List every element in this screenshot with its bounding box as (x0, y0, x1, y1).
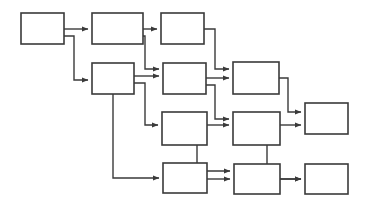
connector-n6-to-n9 (279, 78, 301, 112)
node-n5[interactable] (163, 63, 206, 94)
flowchart-svg (0, 0, 369, 211)
node-n4[interactable] (92, 63, 134, 94)
connector-n4-to-n7 (134, 83, 158, 125)
connector-n5-to-n8 (206, 85, 229, 119)
connector-n2-to-n5 (143, 36, 159, 69)
diagram-canvas (0, 0, 369, 211)
node-box-n3[interactable] (161, 13, 204, 44)
node-n7[interactable] (162, 112, 207, 145)
node-n11[interactable] (234, 164, 280, 194)
node-n9[interactable] (305, 103, 348, 134)
node-n2[interactable] (92, 13, 143, 44)
node-n3[interactable] (161, 13, 204, 44)
node-n8[interactable] (233, 112, 280, 145)
connector-n4-to-n10 (113, 94, 159, 178)
node-box-n10[interactable] (163, 163, 207, 193)
edge-layer (64, 29, 301, 179)
node-n6[interactable] (233, 62, 279, 94)
node-n10[interactable] (163, 163, 207, 193)
node-box-n6[interactable] (233, 62, 279, 94)
node-box-n12[interactable] (305, 164, 348, 194)
node-box-n5[interactable] (163, 63, 206, 94)
node-box-n8[interactable] (233, 112, 280, 145)
node-box-n4[interactable] (92, 63, 134, 94)
connector-n1-to-n4 (64, 36, 88, 80)
node-box-n1[interactable] (21, 13, 64, 44)
node-box-n11[interactable] (234, 164, 280, 194)
node-n12[interactable] (305, 164, 348, 194)
node-n1[interactable] (21, 13, 64, 44)
node-box-n9[interactable] (305, 103, 348, 134)
node-box-n2[interactable] (92, 13, 143, 44)
node-layer (21, 13, 348, 194)
node-box-n7[interactable] (162, 112, 207, 145)
connector-n3-to-n6 (204, 29, 229, 69)
